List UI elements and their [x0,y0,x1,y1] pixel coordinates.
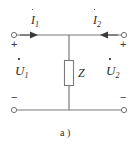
terminal-top-left [11,32,16,37]
polarity-plus-top-left: + [11,39,17,50]
terminal-top-right [121,32,126,37]
terminal-bottom-right [121,107,126,112]
dot-accent-icon [18,58,20,60]
current-left-subscript: 1 [35,20,39,29]
current-arrow-right-icon [100,32,118,39]
voltage-label-right: U2 [106,64,119,77]
current-label-left: I1 [31,14,39,26]
voltage-right-symbol: U [106,64,115,77]
current-label-right: I2 [93,14,101,26]
figure-caption: a ) [60,128,70,138]
current-right-subscript: 2 [97,20,101,29]
voltage-left-subscript: 1 [24,71,28,80]
terminal-bottom-left [11,107,16,112]
voltage-label-left: U1 [15,64,28,77]
voltage-left-symbol: U [15,64,24,77]
impedance-label: Z [78,67,85,79]
polarity-minus-bottom-left: − [11,92,17,103]
dot-accent-icon [109,58,111,60]
polarity-plus-top-right: + [120,39,126,50]
impedance-element [65,61,74,86]
voltage-right-subscript: 2 [115,71,119,80]
polarity-minus-bottom-right: − [120,92,126,103]
two-port-network-figure: I1 I2 U1 U2 Z + + − − a ) [0,0,140,147]
current-arrow-left-icon [20,32,38,39]
